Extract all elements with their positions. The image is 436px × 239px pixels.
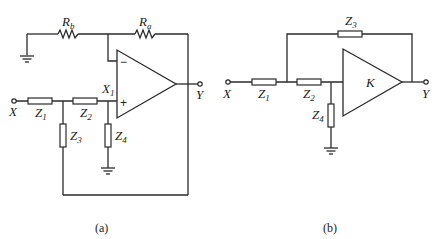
impedance-z3 [60, 124, 66, 147]
circuit-diagrams: − + Y X Z1 Z2 X1 Z3 Z4 Rb Ra [0, 0, 436, 239]
ground-icon-rb [20, 34, 34, 62]
label-z1-b: Z1 [258, 86, 270, 103]
impedance-z2-b [297, 79, 321, 85]
input-terminal-x [12, 99, 16, 103]
plus-sign: + [120, 96, 127, 110]
label-ra: Ra [138, 14, 152, 31]
label-k: K [365, 75, 376, 90]
resistor-rb [58, 30, 78, 38]
label-z4-b: Z4 [312, 107, 324, 124]
label-x: X [8, 104, 18, 119]
label-z1: Z1 [35, 105, 47, 122]
label-y: Y [196, 87, 205, 102]
label-z3: Z3 [70, 128, 82, 145]
minus-sign: − [120, 55, 127, 69]
caption-b: (b) [323, 221, 337, 235]
label-z3-b: Z3 [345, 13, 357, 30]
label-z2-b: Z2 [303, 86, 315, 103]
label-x-b: X [222, 86, 232, 101]
output-terminal-y [198, 82, 202, 86]
impedance-z3-b [338, 31, 362, 37]
impedance-z1-b [252, 79, 276, 85]
impedance-z1 [28, 98, 52, 104]
impedance-z4-b [328, 104, 334, 127]
label-rb: Rb [61, 14, 75, 31]
output-terminal-y-b [424, 80, 428, 84]
label-z4: Z4 [115, 128, 127, 145]
ground-icon-z4 [101, 168, 115, 174]
input-terminal-x-b [226, 80, 230, 84]
caption-a: (a) [95, 221, 108, 235]
label-x1: X1 [101, 81, 114, 98]
label-z2: Z2 [80, 105, 92, 122]
impedance-z2 [73, 98, 97, 104]
ground-icon-b [324, 148, 338, 154]
label-y-b: Y [422, 86, 431, 101]
figure-a: − + Y X Z1 Z2 X1 Z3 Z4 Rb Ra [8, 14, 205, 235]
figure-b: X Z1 Z2 Z3 K Y Z4 (b) [222, 13, 431, 235]
resistor-ra [135, 30, 155, 38]
impedance-z4 [105, 124, 111, 147]
